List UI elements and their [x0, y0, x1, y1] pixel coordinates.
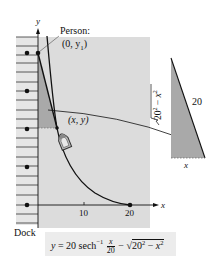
person-point-text: (0, y [62, 38, 80, 49]
x-axis-label: x [161, 201, 165, 210]
formula-fraction: x 20 [107, 238, 115, 255]
y-axis-arrow-icon [36, 28, 40, 34]
person-title: Person: [60, 26, 90, 36]
boat-point-label: (x, y) [68, 115, 89, 125]
side-radicand-a: 20 [153, 111, 163, 121]
curve-end-point [128, 203, 133, 208]
dock-label: Dock [14, 228, 36, 238]
person-point-label: (0, y1) [62, 39, 87, 52]
formula-lhs: = 20 sech [55, 240, 96, 251]
formula-radicand: 202 − x2 [132, 239, 164, 251]
formula-box: y = 20 sech−1 x 20 − √202 − x2 [45, 232, 176, 256]
water-panel [38, 37, 150, 228]
triangle-base-label: x [184, 161, 188, 170]
formula-frac-den: 20 [107, 247, 115, 255]
boat-point [55, 126, 59, 130]
triangle-side-label: 202 − x2 [152, 90, 163, 120]
side-exp-a: 2 [152, 108, 158, 111]
person-point-close: ) [84, 38, 87, 49]
tractrix-formula: y = 20 sech−1 x 20 − √202 − x2 [51, 238, 164, 255]
x-tick-label-20: 20 [125, 209, 134, 218]
hypotenuse-label: 20 [192, 97, 202, 107]
formula-sqrt-a: 20 [132, 240, 142, 251]
side-exp-b: 2 [152, 90, 158, 93]
y-axis-label: y [36, 17, 40, 26]
x-tick-label-10: 10 [79, 209, 88, 218]
x-axis-arrow-icon [153, 203, 159, 207]
formula-minus: − [116, 240, 127, 251]
tractrix-diagram [0, 0, 214, 256]
formula-inverse: −1 [96, 238, 103, 245]
side-radicand-b: x [153, 93, 163, 97]
